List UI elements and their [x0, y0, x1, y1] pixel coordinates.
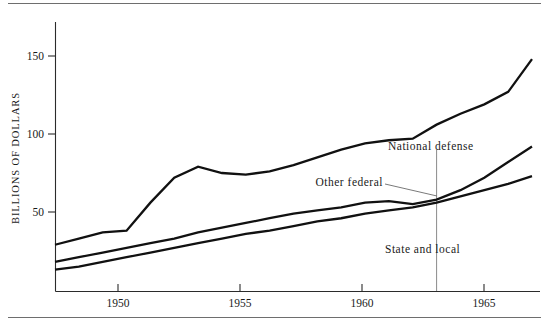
- line-chart: 150 100 50 1950 1955 1960 1965 BILLIONS …: [0, 0, 549, 328]
- y-axis-title: BILLIONS OF DOLLARS: [10, 92, 21, 224]
- x-tick-label-1950: 1950: [107, 297, 130, 309]
- y-tick-label-100: 100: [27, 128, 45, 140]
- x-tick-label-1960: 1960: [351, 297, 374, 309]
- other-federal-leader-line: [385, 184, 437, 196]
- x-tick-label-1955: 1955: [229, 297, 252, 309]
- series-line-other-federal: [55, 146, 532, 261]
- y-tick-label-50: 50: [33, 206, 45, 218]
- figure-container: 150 100 50 1950 1955 1960 1965 BILLIONS …: [0, 0, 549, 328]
- annotation-national-defense: National defense: [388, 140, 474, 152]
- annotation-other-federal: Other federal: [316, 176, 383, 188]
- annotation-state-and-local: State and local: [385, 243, 460, 255]
- x-tick-label-1965: 1965: [473, 297, 496, 309]
- y-tick-label-150: 150: [27, 50, 45, 62]
